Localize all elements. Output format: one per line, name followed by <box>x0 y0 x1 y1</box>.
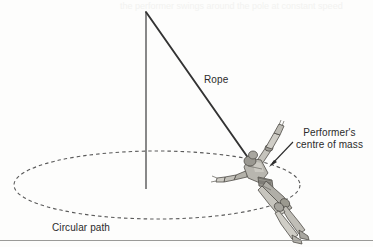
circular-path-label: Circular path <box>52 222 110 234</box>
rope-line <box>146 12 251 162</box>
performer-legs <box>258 181 309 244</box>
centre-of-mass-label-line1: Performer's <box>296 127 363 139</box>
performer-figure <box>211 120 309 244</box>
performer-left-arm <box>211 170 248 182</box>
rope-label: Rope <box>204 74 228 86</box>
performer-right-arm <box>256 120 284 164</box>
figure-canvas: the performer swings around the pole at … <box>0 0 373 247</box>
diagram-svg <box>0 0 373 247</box>
centre-of-mass-label-line2: centre of mass <box>296 139 363 151</box>
centre-of-mass-label: Performer's centre of mass <box>296 127 363 151</box>
